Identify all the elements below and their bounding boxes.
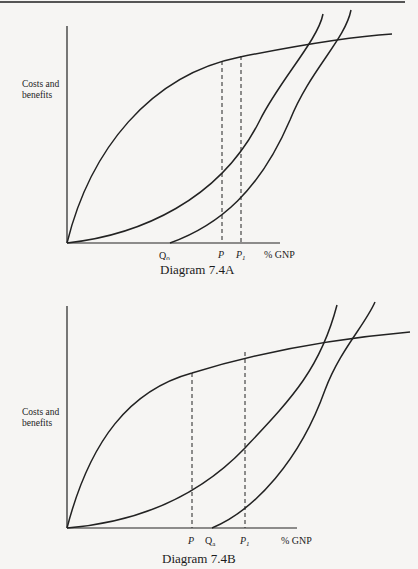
cost-curve [67,305,337,528]
label-qa: Qa [205,535,216,548]
benefits-curve [67,34,392,243]
x-axis-label: % GNP [264,249,295,260]
x-axis-label: % GNP [281,535,312,546]
benefits-curve [67,332,410,528]
diagram-7-4b: P Qa P1 % GNP [0,290,418,550]
caption-7-4a: Diagram 7.4A [160,262,234,278]
caption-7-4b: Diagram 7.4B [162,551,236,567]
label-p1: P1 [235,249,246,260]
label-q0: Q0 [159,250,170,260]
cost-curve-shifted [212,302,375,528]
cost-curve-shifted [170,10,351,243]
label-p: P [217,249,224,260]
diagram-7-4a: Q0 P P1 % GNP [0,0,418,260]
label-p1: P1 [239,535,250,548]
label-p: P [187,535,194,546]
